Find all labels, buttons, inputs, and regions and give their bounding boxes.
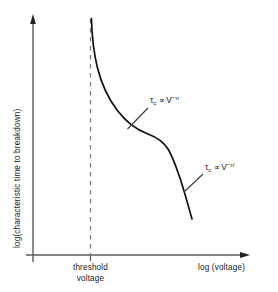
annotation-upper-subscript: c <box>153 99 156 106</box>
breakdown-time-curve <box>91 19 192 220</box>
annotation-lower-prop: ∝ <box>214 162 220 172</box>
x-axis-label: log (voltage) <box>198 263 245 272</box>
annotation-lower-leader <box>184 174 203 192</box>
threshold-label-line1: threshold <box>73 263 108 272</box>
y-axis-arrow-icon <box>30 14 36 24</box>
annotation-lower-label: τc∝V−n′ <box>205 161 236 174</box>
annotation-upper-exponent: −n <box>172 94 180 101</box>
threshold-label-line2: voltage <box>77 274 105 283</box>
y-axis-label: log(characteristic time to breakdown) <box>13 109 22 248</box>
plot-area: τc∝V−n τc∝V−n′ log (voltage) threshold v… <box>0 0 278 292</box>
annotation-lower-exponent: −n′ <box>227 161 236 168</box>
annotation-lower-subscript: c <box>208 166 211 173</box>
annotation-upper-label: τc∝V−n <box>150 94 179 107</box>
annotation-upper-leader <box>128 108 149 129</box>
figure-container: τc∝V−n τc∝V−n′ log (voltage) threshold v… <box>0 0 278 292</box>
annotation-upper-prop: ∝ <box>159 95 165 105</box>
x-axis-arrow-icon <box>240 252 250 258</box>
